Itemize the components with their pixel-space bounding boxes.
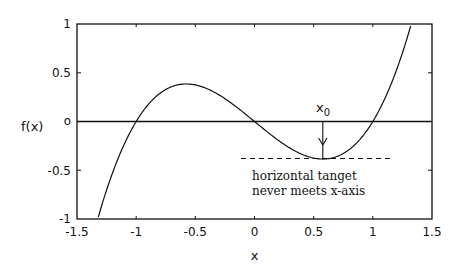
annotation-line-1: horizontal tanget	[252, 169, 357, 183]
x-tick-label: -1.5	[65, 225, 88, 239]
x0-label-subscript: 0	[324, 107, 330, 118]
y-tick-label: -0.5	[48, 164, 71, 178]
y-axis-label: f(x)	[21, 119, 43, 134]
y-tick-label: 0.5	[52, 66, 71, 80]
x-tick-label: 0	[251, 225, 259, 239]
x-tick-label: 1	[369, 225, 377, 239]
x0-arrow	[319, 122, 328, 159]
y-tick-label: o	[64, 114, 71, 128]
x-tick-label: 0.5	[304, 225, 323, 239]
x-tick-label: 1.5	[422, 225, 441, 239]
y-tick-label: -1	[59, 212, 71, 226]
x-axis-label: x	[251, 248, 259, 263]
chart: -1.5 -1 -0.5 0 0.5 1 1.5 1 0.5 o -0.5 -1…	[0, 0, 463, 274]
x-tick-label: -1	[130, 225, 142, 239]
x-tick-label: -0.5	[184, 225, 207, 239]
y-tick-labels: 1 0.5 o -0.5 -1	[48, 17, 71, 226]
annotation-line-2: never meets x-axis	[252, 184, 365, 198]
y-tick-label: 1	[63, 17, 71, 31]
x0-label: x0	[316, 100, 330, 118]
x-tick-labels: -1.5 -1 -0.5 0 0.5 1 1.5	[65, 225, 441, 239]
